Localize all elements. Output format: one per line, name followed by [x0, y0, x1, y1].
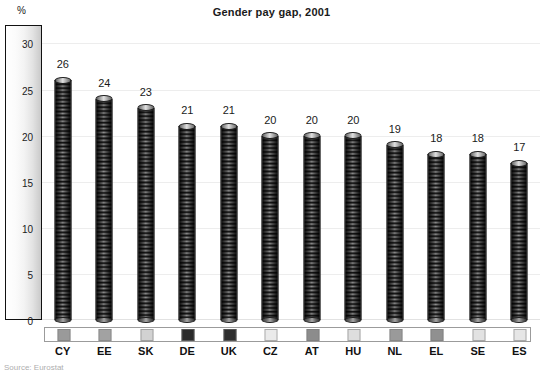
bar-bottom-cap — [345, 317, 362, 323]
y-axis-scale-box: 051015202530 — [5, 25, 42, 320]
bar — [96, 99, 113, 320]
bar-value-label: 20 — [306, 114, 318, 126]
bar-value-label: 20 — [264, 114, 276, 126]
y-axis-tick-label: 15 — [22, 177, 33, 188]
bar — [220, 126, 237, 320]
bar — [345, 136, 362, 320]
bar — [469, 154, 486, 320]
y-axis-tick-label: 20 — [22, 131, 33, 142]
legend-strip — [44, 327, 531, 342]
category-label-ee: EE — [97, 345, 112, 357]
bar-value-label: 18 — [472, 132, 484, 144]
bar-column — [457, 25, 499, 320]
legend-swatch-ee — [99, 329, 112, 341]
category-label-de: DE — [180, 345, 195, 357]
bar-top-cap — [428, 151, 445, 158]
bar-value-label: 21 — [181, 104, 193, 116]
bar-value-label: 21 — [223, 104, 235, 116]
bar — [511, 163, 528, 320]
bar-column — [125, 25, 167, 320]
bar-column — [374, 25, 416, 320]
y-axis-tick-label: 5 — [27, 269, 33, 280]
bar-value-label: 24 — [98, 77, 110, 89]
category-label-se: SE — [470, 345, 485, 357]
bar-top-cap — [179, 123, 196, 130]
bar-column — [333, 25, 375, 320]
y-axis-tick-label: 10 — [22, 223, 33, 234]
bar-top-cap — [54, 77, 71, 84]
bar-value-label: 18 — [430, 132, 442, 144]
bar — [428, 154, 445, 320]
legend-swatch-uk — [223, 329, 236, 341]
category-label-at: AT — [305, 345, 319, 357]
category-label-uk: UK — [221, 345, 237, 357]
chart-title: Gender pay gap, 2001 — [0, 6, 543, 18]
category-label-es: ES — [512, 345, 527, 357]
y-axis-tick-label: 0 — [27, 316, 33, 327]
bar-column — [167, 25, 209, 320]
bar-top-cap — [511, 160, 528, 167]
bar-bottom-cap — [96, 317, 113, 323]
bar-bottom-cap — [179, 317, 196, 323]
legend-swatch-at — [306, 329, 319, 341]
bar — [262, 136, 279, 320]
bar-value-label: 20 — [347, 114, 359, 126]
bar-top-cap — [220, 123, 237, 130]
bar-top-cap — [137, 104, 154, 111]
bar-top-cap — [303, 132, 320, 139]
bar-bottom-cap — [428, 317, 445, 323]
y-axis-tick-label: 30 — [22, 39, 33, 50]
source-note: Source: Eurostat — [4, 363, 64, 370]
bar — [179, 126, 196, 320]
category-label-hu: HU — [345, 345, 361, 357]
legend-swatch-hu — [348, 329, 361, 341]
bar-bottom-cap — [511, 317, 528, 323]
bar-column — [291, 25, 333, 320]
bar-column — [84, 25, 126, 320]
legend-swatch-nl — [389, 329, 402, 341]
bar-top-cap — [386, 141, 403, 148]
legend-swatch-es — [514, 329, 527, 341]
legend-swatch-cz — [265, 329, 278, 341]
bar-value-label: 19 — [389, 123, 401, 135]
chart-page: Gender pay gap, 2001 % 051015202530 Sour… — [0, 0, 543, 370]
legend-swatch-se — [472, 329, 485, 341]
legend-swatch-el — [431, 329, 444, 341]
legend-swatch-sk — [140, 329, 153, 341]
plot-area — [42, 25, 540, 320]
bar — [54, 80, 71, 320]
y-axis-tick-label: 25 — [22, 85, 33, 96]
bar-top-cap — [469, 151, 486, 158]
bar-value-label: 26 — [57, 58, 69, 70]
bar-bottom-cap — [220, 317, 237, 323]
bar-value-label: 17 — [513, 141, 525, 153]
bar-column — [208, 25, 250, 320]
legend-swatch-cy — [57, 329, 70, 341]
bar-bottom-cap — [469, 317, 486, 323]
bar-top-cap — [345, 132, 362, 139]
bar-value-label: 23 — [140, 86, 152, 98]
category-label-el: EL — [429, 345, 443, 357]
bar-column — [499, 25, 541, 320]
category-label-sk: SK — [138, 345, 153, 357]
bar — [386, 145, 403, 320]
bar-bottom-cap — [303, 317, 320, 323]
bar-bottom-cap — [262, 317, 279, 323]
bar-column — [416, 25, 458, 320]
bar-column — [250, 25, 292, 320]
bar — [137, 108, 154, 320]
category-label-nl: NL — [387, 345, 402, 357]
bar-bottom-cap — [386, 317, 403, 323]
bar — [303, 136, 320, 320]
bar-bottom-cap — [54, 317, 71, 323]
bar-bottom-cap — [137, 317, 154, 323]
bar-top-cap — [262, 132, 279, 139]
category-label-cy: CY — [55, 345, 70, 357]
legend-swatch-de — [182, 329, 195, 341]
y-axis-unit-label: % — [17, 5, 26, 16]
bar-top-cap — [96, 95, 113, 102]
category-label-cz: CZ — [263, 345, 278, 357]
